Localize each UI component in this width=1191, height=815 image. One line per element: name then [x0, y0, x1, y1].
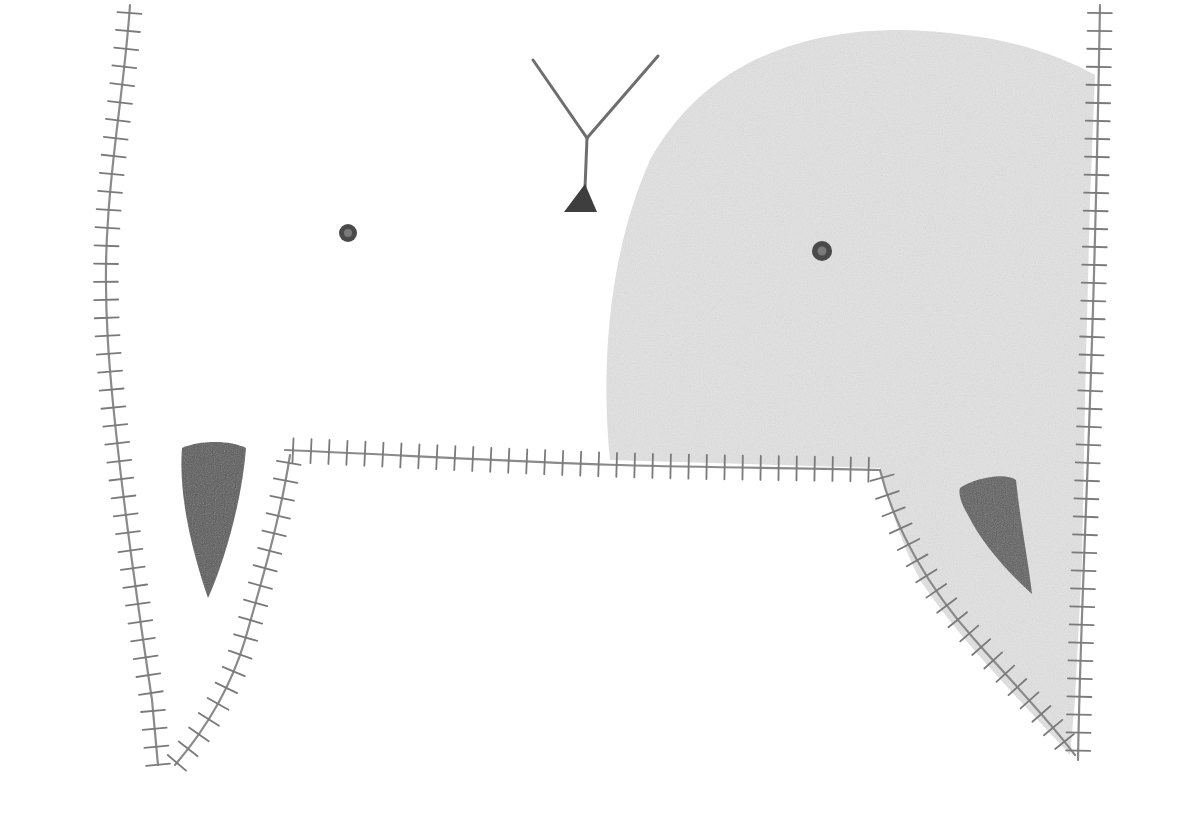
pencil-drawing: [0, 0, 1191, 815]
shaded-head-shape: [606, 30, 1095, 755]
left-dark-tooth: [181, 442, 246, 598]
